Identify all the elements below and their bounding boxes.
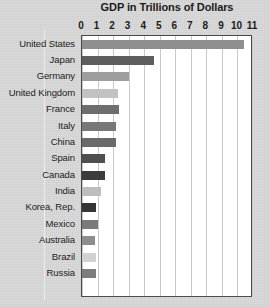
bar [82, 253, 96, 262]
x-tick-label: 3 [125, 20, 131, 31]
x-tick-label: 6 [171, 20, 177, 31]
x-tick-label: 9 [218, 20, 224, 31]
category-label: Russia [47, 267, 75, 278]
bar-row [82, 216, 251, 232]
category-label-row: Spain [0, 150, 78, 166]
category-label-row: United States [0, 35, 78, 51]
x-tick-label: 1 [94, 20, 100, 31]
category-label: Italy [58, 120, 75, 131]
category-label-row: China [0, 133, 78, 149]
x-tick-label: 10 [231, 20, 242, 31]
bar [82, 187, 101, 196]
category-label: Brazil [52, 251, 75, 262]
category-label: Australia [39, 234, 75, 245]
bar-row [82, 118, 251, 134]
x-tick-label: 11 [247, 20, 258, 31]
bar [82, 171, 105, 180]
x-tick-label: 2 [109, 20, 115, 31]
x-tick-label: 4 [140, 20, 146, 31]
category-label: Japan [50, 54, 75, 65]
x-tick-label: 8 [203, 20, 209, 31]
bar-series [82, 36, 251, 296]
bar-row [82, 134, 251, 150]
bar [82, 138, 116, 147]
bar [82, 122, 116, 131]
bar [82, 154, 105, 163]
bar-row [82, 200, 251, 216]
bar-row [82, 249, 251, 265]
x-tick-label: 7 [187, 20, 193, 31]
category-label: Mexico [46, 218, 76, 229]
category-label: France [46, 103, 75, 114]
bar-row [82, 233, 251, 249]
bar-row [82, 52, 251, 68]
category-label: Germany [37, 70, 75, 81]
bar [82, 72, 129, 81]
bar-row [82, 102, 251, 118]
category-label-row: Mexico [0, 215, 78, 231]
category-label-row: Germany [0, 68, 78, 84]
plot-area [81, 35, 252, 297]
x-tick-label: 0 [78, 20, 84, 31]
bar [82, 56, 154, 65]
bar [82, 236, 95, 245]
gdp-bar-chart: GDP in Trillions of Dollars 012345678910… [0, 0, 270, 307]
bar [82, 203, 96, 212]
category-label: India [55, 185, 75, 196]
category-label-row: United Kingdom [0, 84, 78, 100]
bar [82, 269, 96, 278]
bar [82, 40, 244, 49]
category-label: Korea, Rep. [25, 201, 75, 212]
bar [82, 220, 98, 229]
category-label-row: Italy [0, 117, 78, 133]
bar-row [82, 36, 251, 52]
category-label: United Kingdom [9, 87, 75, 98]
bar-row [82, 85, 251, 101]
bar-row [82, 167, 251, 183]
category-label: China [51, 136, 75, 147]
category-label-row: Russia [0, 264, 78, 280]
bar [82, 105, 119, 114]
bar-row [82, 151, 251, 167]
category-axis-labels: United StatesJapanGermanyUnited KingdomF… [0, 35, 78, 297]
chart-title: GDP in Trillions of Dollars [81, 1, 253, 13]
category-label: Canada [42, 169, 75, 180]
bar [82, 89, 118, 98]
x-axis-tick-labels: 01234567891011 [81, 20, 252, 34]
x-tick-label: 5 [156, 20, 162, 31]
bar-row [82, 265, 251, 281]
bar-row [82, 69, 251, 85]
category-label-row: Korea, Rep. [0, 199, 78, 215]
category-label-row: Japan [0, 51, 78, 67]
category-label-row: Brazil [0, 248, 78, 264]
bar-row [82, 183, 251, 199]
category-label-row: Australia [0, 232, 78, 248]
category-label-row: Canada [0, 166, 78, 182]
gridline [252, 36, 253, 296]
category-label: United States [19, 38, 75, 49]
category-label-row: India [0, 182, 78, 198]
category-label: Spain [51, 152, 75, 163]
category-label-row: France [0, 101, 78, 117]
